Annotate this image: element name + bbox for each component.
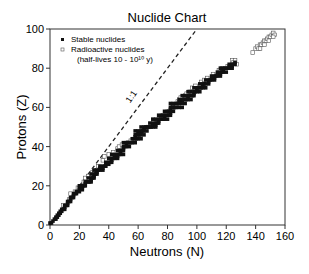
nuclide-chart: Nuclide Chart 020406080100120140160 0204… xyxy=(0,0,309,274)
radioactive-point xyxy=(263,43,267,47)
y-tick-label: 100 xyxy=(26,23,44,35)
x-tick-label: 120 xyxy=(217,230,235,242)
radioactive-point xyxy=(267,39,271,43)
radioactive-point xyxy=(103,155,107,159)
radioactive-point xyxy=(258,47,262,51)
legend-label-radioactive: Radioactive nuclides xyxy=(71,45,144,54)
x-tick-label: 60 xyxy=(132,230,144,242)
chart-title: Nuclide Chart xyxy=(128,10,207,25)
y-tick-label: 40 xyxy=(32,141,44,153)
y-tick-label: 80 xyxy=(32,62,44,74)
stable-point xyxy=(139,137,143,141)
radioactive-point xyxy=(271,35,275,39)
stable-point xyxy=(233,61,237,65)
legend: Stable nuclides Radioactive nuclides (ha… xyxy=(61,35,153,64)
stable-point xyxy=(180,106,184,110)
x-tick-label: 40 xyxy=(103,230,115,242)
stable-point xyxy=(133,141,137,145)
y-tick-label: 0 xyxy=(38,219,44,231)
x-tick-label: 140 xyxy=(246,230,264,242)
x-tick-label: 160 xyxy=(276,230,294,242)
one-to-one-label: 1:1 xyxy=(124,89,139,105)
stable-nuclides-series xyxy=(48,61,237,225)
x-tick-label: 0 xyxy=(47,230,53,242)
y-tick-label: 60 xyxy=(32,101,44,113)
legend-label-stable: Stable nuclides xyxy=(71,35,125,44)
radioactive-point xyxy=(251,51,255,55)
y-tick-label: 20 xyxy=(32,180,44,192)
legend-open-square-icon xyxy=(61,48,64,51)
x-tick-label: 20 xyxy=(73,230,85,242)
x-tick-label: 80 xyxy=(161,230,173,242)
x-axis: 020406080100120140160 xyxy=(47,225,294,242)
y-axis-label: Protons (Z) xyxy=(14,94,29,159)
x-tick-label: 100 xyxy=(188,230,206,242)
legend-label-halflife: (half-lives 10 - 10¹⁰ y) xyxy=(77,55,153,64)
y-axis: 020406080100 xyxy=(26,23,50,231)
x-axis-label: Neutrons (N) xyxy=(130,244,204,259)
legend-filled-square-icon xyxy=(61,38,64,41)
